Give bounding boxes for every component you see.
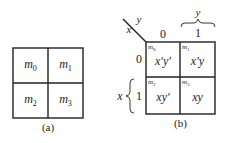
minterm-expression: x′y′ xyxy=(146,54,180,69)
minterm-expression: x′y xyxy=(180,54,215,69)
col-header-1: 1 xyxy=(192,26,204,41)
minterm-label: m2 xyxy=(148,78,156,87)
minterm-label: m3 xyxy=(182,78,190,87)
minterm-index: 3 xyxy=(68,99,72,108)
minterm-index: 2 xyxy=(33,99,37,108)
col-brace-label: y xyxy=(192,6,204,18)
minterm-label: m1 xyxy=(182,43,190,52)
map-a-caption: (a) xyxy=(13,121,83,133)
map-b-caption: (b) xyxy=(146,117,215,129)
corner-row-var: x xyxy=(124,23,134,35)
map-b-cell-m1: m1 x′y xyxy=(180,42,215,77)
minterm-index: 0 xyxy=(153,47,156,52)
map-a-cell-m3: m3 xyxy=(48,92,83,108)
map-a-cell-m2: m2 xyxy=(13,92,48,108)
minterm-var: m xyxy=(24,57,33,71)
minterm-index: 1 xyxy=(68,64,72,73)
minterm-expression: xy xyxy=(180,90,215,105)
minterm-label: m0 xyxy=(148,43,156,52)
map-b-cell-m3: m3 xy xyxy=(180,77,215,114)
map-b-cell-m0: m0 x′y′ xyxy=(146,42,180,77)
minterm-var: m xyxy=(59,92,68,106)
minterm-var: m xyxy=(24,92,33,106)
row-header-0: 0 xyxy=(134,52,144,67)
minterm-var: m xyxy=(59,57,68,71)
minterm-index: 2 xyxy=(153,82,156,87)
map-a-cell-m0: m0 xyxy=(13,57,48,73)
minterm-expression: xy′ xyxy=(146,90,180,105)
map-a-cell-m1: m1 xyxy=(48,57,83,73)
minterm-index: 3 xyxy=(187,82,190,87)
row-brace-label: x xyxy=(115,89,125,104)
col-header-0: 0 xyxy=(157,27,169,42)
row-brace xyxy=(126,79,134,113)
row-header-1: 1 xyxy=(134,89,144,104)
corner-col-var: y xyxy=(134,13,144,25)
minterm-index: 1 xyxy=(187,47,190,52)
map-b-cell-m2: m2 xy′ xyxy=(146,77,180,114)
minterm-index: 0 xyxy=(33,64,37,73)
